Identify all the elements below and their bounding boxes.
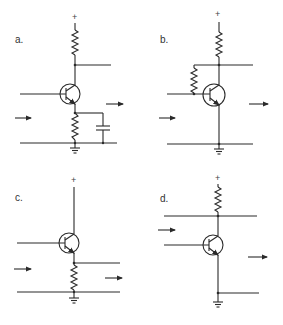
supply-plus-a: + [72,12,77,22]
ground-icon [69,292,79,303]
supply-plus-b: + [215,9,220,19]
transistor-icon [20,84,80,104]
panel-c: c. + [14,175,122,303]
ground-icon [213,293,223,307]
bypass-capacitor-icon [96,113,110,143]
panel-label-a: a. [15,34,23,45]
panel-label-b: b. [160,34,168,45]
transistor-icon [17,233,79,253]
emitter-resistor-icon [71,263,77,292]
ground-icon [214,144,224,154]
ground-icon [70,143,80,153]
supply-plus-d: + [215,173,220,183]
circuit-diagram: a. + [0,0,283,325]
collector-resistor-icon [216,22,222,86]
emitter-resistor-icon [72,113,78,143]
transistor-icon [164,235,223,255]
panel-label-c: c. [15,192,23,203]
panel-d: d. + [158,173,267,307]
panel-label-d: d. [160,193,168,204]
panel-b: b. + [159,9,268,154]
supply-plus-c: + [71,175,76,185]
collector-resistor-icon [215,184,221,236]
feedback-resistor-icon [191,65,197,93]
collector-resistor-icon [72,23,78,86]
panel-a: a. + [15,12,123,153]
